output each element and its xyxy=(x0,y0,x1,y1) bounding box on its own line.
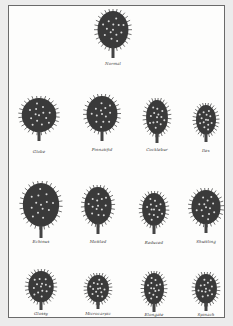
specimen-label: Spinach xyxy=(181,312,231,317)
specimen-elongate: Elongate xyxy=(129,6,179,326)
seed-capsule-icon xyxy=(190,272,222,314)
specimen-label: Elongate xyxy=(129,312,179,317)
seed-capsule-icon xyxy=(139,271,169,315)
seed-capsule-icon xyxy=(82,273,114,312)
specimen-microcarpic: Microcarpic xyxy=(73,6,123,326)
botanical-plate: NormalGlobePinnatifidCockleburIlexEchinu… xyxy=(8,5,225,318)
seed-capsule-icon xyxy=(23,269,59,313)
specimen-spinach: Spinach xyxy=(181,6,231,326)
specimen-label: Glossy xyxy=(16,311,66,316)
specimen-label: Microcarpic xyxy=(73,311,123,316)
specimen-glossy: Glossy xyxy=(16,6,66,326)
